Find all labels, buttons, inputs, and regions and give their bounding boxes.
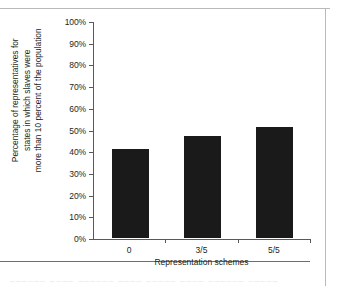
y-tick-mark bbox=[89, 217, 93, 218]
page-frame-top-rule bbox=[0, 8, 330, 9]
bar-5-5 bbox=[256, 127, 293, 238]
y-axis-title-line-2: states in which slaves were bbox=[21, 0, 33, 210]
y-tick-mark bbox=[89, 239, 93, 240]
x-axis-title: Representation schemes bbox=[93, 258, 310, 267]
bar-0 bbox=[112, 149, 149, 238]
y-tick-mark bbox=[89, 87, 93, 88]
y-tick-label: 80% bbox=[69, 61, 86, 70]
x-tick-label: 5/5 bbox=[268, 246, 280, 255]
y-tick-label: 50% bbox=[69, 126, 86, 135]
y-tick-label: 100% bbox=[65, 18, 86, 27]
y-tick-mark bbox=[89, 44, 93, 45]
x-tick-label: 3/5 bbox=[196, 246, 208, 255]
y-tick-mark bbox=[89, 152, 93, 153]
y-axis-title: Percentage of representatives for states… bbox=[10, 0, 45, 210]
x-axis-line bbox=[93, 239, 311, 240]
y-tick-mark bbox=[89, 174, 93, 175]
y-tick-mark bbox=[89, 196, 93, 197]
y-tick-label: 30% bbox=[69, 170, 86, 179]
y-tick-label: 20% bbox=[69, 191, 86, 200]
x-tick-mark bbox=[165, 239, 166, 243]
y-tick-label: 60% bbox=[69, 105, 86, 114]
y-tick-label: 40% bbox=[69, 148, 86, 157]
bar-series bbox=[94, 22, 310, 238]
y-tick-mark bbox=[89, 22, 93, 23]
x-tick-mark bbox=[310, 239, 311, 243]
y-tick-label: 70% bbox=[69, 83, 86, 92]
plot-area: 0%10%20%30%40%50%60%70%80%90%100% 03/55/… bbox=[93, 22, 310, 239]
y-tick-mark bbox=[89, 131, 93, 132]
y-axis-title-line-1: Percentage of representatives for bbox=[10, 0, 22, 210]
bar-chart-figure: Percentage of representatives for states… bbox=[0, 0, 338, 286]
y-tick-mark bbox=[89, 109, 93, 110]
y-axis-title-line-3: more than 10 percent of the population bbox=[33, 0, 45, 210]
x-tick-label: 0 bbox=[127, 246, 132, 255]
scan-bleed-through-text: ______ ____ ______ ____ _____ ____ _____… bbox=[10, 273, 315, 282]
y-tick-label: 0% bbox=[74, 235, 86, 244]
page-frame-right-rule bbox=[325, 8, 326, 286]
y-tick-mark bbox=[89, 65, 93, 66]
y-tick-label: 90% bbox=[69, 39, 86, 48]
x-tick-mark bbox=[238, 239, 239, 243]
y-tick-label: 10% bbox=[69, 213, 86, 222]
bar-3-5 bbox=[184, 136, 221, 238]
